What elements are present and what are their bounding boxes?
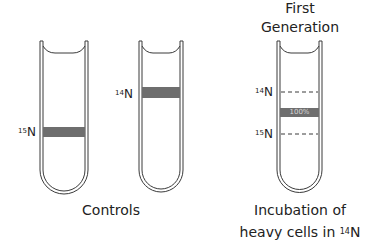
label-14n-reference: 14N [255,86,273,98]
caption-base: N [350,224,360,240]
label-base: N [124,87,133,101]
controls-caption: Controls [61,202,161,219]
label-14n-control: 14N [115,88,133,100]
label-base: N [264,85,273,99]
band-14n-control [142,87,180,98]
first-generation-title-line2: Generation [250,19,350,36]
tube-heavy-control [40,41,88,194]
tube-light-control [139,41,183,192]
label-sup: 14 [115,89,124,97]
incubation-caption-line1: Incubation of [230,202,370,219]
label-sup: 15 [255,129,264,137]
band-percent-label: 100% [280,108,319,117]
label-sup: 14 [255,87,264,95]
label-base: N [27,125,36,139]
label-15n-reference: 15N [255,128,273,140]
band-15n-control [43,127,85,137]
label-base: N [264,127,273,141]
label-sup: 15 [18,127,27,135]
caption-prefix: heavy cells in [240,224,340,240]
first-generation-title-line1: First [250,0,350,17]
caption-sup: 14 [340,227,350,236]
incubation-caption-line2: heavy cells in 14N [222,224,378,241]
label-15n-control: 15N [18,126,36,138]
